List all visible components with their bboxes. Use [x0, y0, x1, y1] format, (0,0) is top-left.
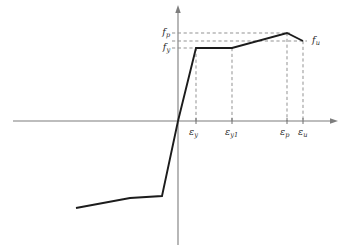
- stress-strain-figure: fp fy fu εy εy1 εp εu: [0, 0, 350, 250]
- curve-compression-branch: [76, 121, 178, 208]
- label-eps-y-subscript: y: [194, 131, 198, 139]
- plot-canvas: [0, 0, 350, 250]
- label-f-p: fp: [150, 27, 170, 37]
- y-axis-arrowhead: [175, 5, 180, 13]
- label-f-u-symbol: f: [312, 34, 316, 45]
- vertical-guide-lines: [196, 33, 303, 121]
- label-f-u-subscript: u: [316, 39, 320, 47]
- label-f-y: fy: [150, 42, 170, 52]
- curve-tension-branch: [178, 33, 303, 121]
- label-eps-p: εp: [280, 127, 289, 137]
- label-eps-p-subscript: p: [285, 131, 289, 139]
- x-axis-arrowhead: [330, 118, 338, 124]
- label-eps-y1: εy1: [225, 127, 238, 137]
- label-f-u: fu: [312, 35, 320, 45]
- label-eps-u: εu: [298, 127, 307, 137]
- label-eps-y1-subscript: y1: [230, 131, 238, 139]
- label-eps-y: εy: [189, 127, 198, 137]
- label-f-p-subscript: p: [166, 31, 170, 39]
- label-f-y-subscript: y: [166, 46, 170, 54]
- label-eps-u-subscript: u: [303, 131, 307, 139]
